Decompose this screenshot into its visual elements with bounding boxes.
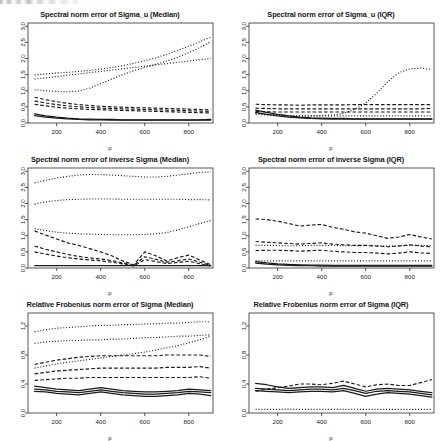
x-axis-tick-label: 800 xyxy=(405,418,416,425)
y-axis-tick-label: 0.5 xyxy=(19,102,26,111)
x-axis-tick-label: 400 xyxy=(317,273,328,280)
panel-spectral-inverse-sigma-median: Spectral norm error of inverse Sigma (Me… xyxy=(0,155,220,296)
plot-area: 0.00.51.01.52.02.53.0200400600800 xyxy=(0,10,220,151)
y-axis-tick-label: 2.0 xyxy=(240,54,247,63)
x-axis-tick-label: 200 xyxy=(51,273,62,280)
x-axis-tick-label: 400 xyxy=(96,128,107,135)
panel-spectral-inverse-sigma-iqr: Spectral norm error of inverse Sigma (IQ… xyxy=(221,155,441,296)
y-axis-tick-label: 1.5 xyxy=(240,215,247,224)
y-axis-tick-label: 0.0 xyxy=(240,263,247,272)
plot-area: 0.00.51.01.52.02.53.0200400600800 xyxy=(221,155,441,296)
y-axis-tick-label: 1.0 xyxy=(240,86,247,95)
scan-artifact xyxy=(0,0,80,4)
y-axis-tick-label: 2.5 xyxy=(19,37,26,46)
x-axis-tick-label: 600 xyxy=(361,128,372,135)
y-axis-tick-label: 0.0 xyxy=(240,408,247,417)
panel-spectral-sigma-u-iqr: Spectral norm error of Sigma_u (IQR) p 0… xyxy=(221,10,441,151)
y-axis-tick-label: 2.5 xyxy=(19,182,26,191)
y-axis-tick-label: 0.8 xyxy=(240,350,247,359)
y-axis-tick-label: 0.5 xyxy=(19,247,26,256)
x-axis-tick-label: 200 xyxy=(272,273,283,280)
x-axis-tick-label: 200 xyxy=(51,418,62,425)
y-axis-tick-label: 0.4 xyxy=(19,379,26,388)
y-axis-tick-label: 3.0 xyxy=(240,166,247,175)
y-axis-tick-label: 0.5 xyxy=(240,102,247,111)
y-axis-tick-label: 1.2 xyxy=(19,321,26,330)
x-axis-tick-label: 800 xyxy=(184,128,195,135)
y-axis-tick-label: 2.5 xyxy=(240,182,247,191)
y-axis-tick-label: 0.0 xyxy=(19,263,26,272)
y-axis-tick-label: 0.0 xyxy=(240,118,247,127)
y-axis-tick-label: 1.5 xyxy=(19,215,26,224)
plot-area: 0.00.51.01.52.02.53.0200400600800 xyxy=(221,10,441,151)
panel-spectral-sigma-u-median: Spectral norm error of Sigma_u (Median) … xyxy=(0,10,220,151)
y-axis-tick-label: 3.0 xyxy=(19,166,26,175)
panel-relative-frobenius-sigma-iqr: Relative Frobenius norm error of Sigma (… xyxy=(221,300,441,441)
y-axis-tick-label: 1.0 xyxy=(19,86,26,95)
x-axis-tick-label: 600 xyxy=(140,273,151,280)
panel-relative-frobenius-sigma-median: Relative Frobenius norm error of Sigma (… xyxy=(0,300,220,441)
x-axis-tick-label: 600 xyxy=(140,418,151,425)
x-axis-tick-label: 600 xyxy=(140,128,151,135)
y-axis-tick-label: 0.5 xyxy=(240,247,247,256)
y-axis-tick-label: 0.0 xyxy=(19,408,26,417)
y-axis-tick-label: 1.0 xyxy=(19,231,26,240)
x-axis-tick-label: 400 xyxy=(317,128,328,135)
y-axis-tick-label: 3.0 xyxy=(240,21,247,30)
x-axis-tick-label: 200 xyxy=(272,418,283,425)
x-axis-tick-label: 800 xyxy=(184,273,195,280)
y-axis-tick-label: 1.0 xyxy=(240,231,247,240)
x-axis-tick-label: 400 xyxy=(317,418,328,425)
y-axis-tick-label: 0.4 xyxy=(240,379,247,388)
x-axis-tick-label: 200 xyxy=(51,128,62,135)
y-axis-tick-label: 0.8 xyxy=(19,350,26,359)
y-axis-tick-label: 2.0 xyxy=(19,199,26,208)
plot-area: 0.00.40.81.2200400600800 xyxy=(0,300,220,441)
x-axis-tick-label: 800 xyxy=(405,128,416,135)
x-axis-tick-label: 600 xyxy=(361,418,372,425)
plot-area: 0.00.40.81.2200400600800 xyxy=(221,300,441,441)
x-axis-tick-label: 400 xyxy=(96,418,107,425)
y-axis-tick-label: 1.5 xyxy=(240,70,247,79)
y-axis-tick-label: 2.5 xyxy=(240,37,247,46)
y-axis-tick-label: 1.2 xyxy=(240,321,247,330)
x-axis-tick-label: 800 xyxy=(184,418,195,425)
x-axis-tick-label: 600 xyxy=(361,273,372,280)
figure-canvas: Spectral norm error of Sigma_u (Median) … xyxy=(0,0,441,441)
y-axis-tick-label: 0.0 xyxy=(19,118,26,127)
x-axis-tick-label: 800 xyxy=(405,273,416,280)
y-axis-tick-label: 2.0 xyxy=(19,54,26,63)
x-axis-tick-label: 200 xyxy=(272,128,283,135)
x-axis-tick-label: 400 xyxy=(96,273,107,280)
y-axis-tick-label: 1.5 xyxy=(19,70,26,79)
plot-area: 0.00.51.01.52.02.53.0200400600800 xyxy=(0,155,220,296)
y-axis-tick-label: 3.0 xyxy=(19,21,26,30)
y-axis-tick-label: 2.0 xyxy=(240,199,247,208)
